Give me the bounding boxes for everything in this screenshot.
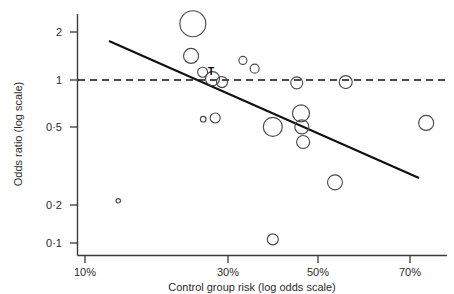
y-tick-label-2: 0·5 — [46, 121, 62, 133]
y-tick-label-3: 0·2 — [46, 199, 62, 211]
y-tick-label-4: 0·1 — [46, 237, 62, 249]
data-point-bubble — [267, 234, 278, 245]
data-points-group — [116, 11, 434, 245]
figure-container: 2 1 0·5 0·2 0·1 10% 30% 50% 70% Control … — [0, 0, 454, 294]
x-tick-label-2: 50% — [307, 266, 329, 278]
y-tick-label-0: 2 — [56, 26, 62, 38]
axes-group: 2 1 0·5 0·2 0·1 10% 30% 50% 70% Control … — [12, 14, 447, 293]
data-point-bubble — [263, 117, 282, 136]
data-point-bubble — [180, 11, 206, 37]
data-point-bubble — [184, 48, 199, 63]
data-point-bubble — [419, 115, 434, 130]
x-tick-label-1: 30% — [217, 266, 239, 278]
data-point-bubble — [339, 76, 352, 89]
annotation-T: T — [208, 66, 214, 77]
scatter-plot: 2 1 0·5 0·2 0·1 10% 30% 50% 70% Control … — [0, 0, 454, 294]
reference-lines-group — [78, 41, 447, 178]
data-point-bubble — [328, 175, 343, 190]
x-tick-labels: 10% 30% 50% 70% — [74, 266, 421, 278]
annotations-group: T — [208, 66, 214, 77]
y-tick-label-1: 1 — [56, 74, 62, 86]
x-tick-label-0: 10% — [74, 266, 96, 278]
x-tick-label-3: 70% — [399, 266, 421, 278]
x-axis-title: Control group risk (log odds scale) — [168, 281, 336, 293]
data-point-bubble — [297, 136, 310, 149]
data-point-bubble — [116, 199, 120, 203]
y-tick-labels: 2 1 0·5 0·2 0·1 — [46, 26, 62, 249]
data-point-bubble — [250, 64, 259, 73]
y-axis-title: Odds ratio (log scale) — [12, 82, 24, 187]
data-point-bubble — [291, 77, 303, 89]
data-point-bubble — [293, 105, 310, 122]
meta-regression-line — [109, 41, 419, 178]
data-point-bubble — [239, 56, 247, 64]
data-point-bubble — [210, 113, 220, 123]
data-point-bubble — [200, 116, 206, 122]
